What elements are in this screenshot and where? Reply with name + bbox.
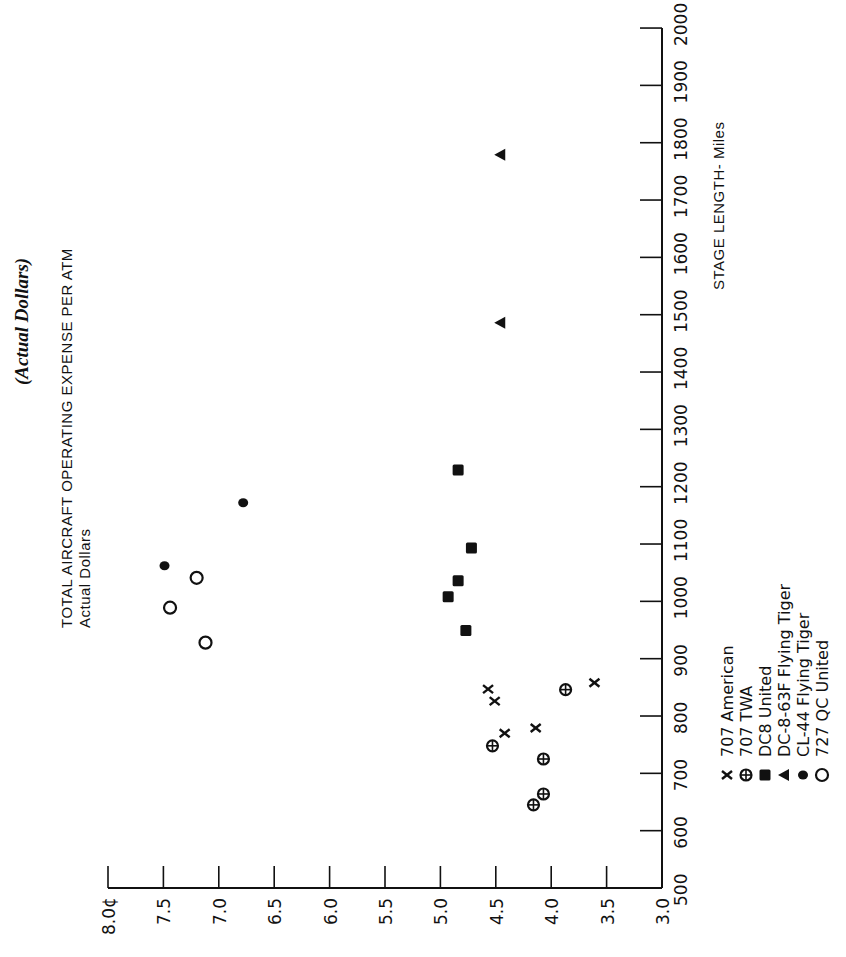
filled-circle-icon xyxy=(798,771,808,780)
stage-length-tick-label: 1700 xyxy=(671,175,691,218)
cost-tick-label: 6.0 xyxy=(321,898,341,925)
legend-label: 707 TWA xyxy=(737,686,756,757)
open-circle-marker xyxy=(200,637,212,649)
cost-tick-label: 3.0 xyxy=(653,898,673,925)
stage-length-tick-label: 600 xyxy=(671,816,691,848)
scatter-chart: 3.03.54.04.55.05.56.06.57.07.58.0¢500600… xyxy=(0,0,846,957)
filled-square-marker xyxy=(453,575,464,586)
legend-label: 707 American xyxy=(718,645,737,757)
stage-length-tick-label: 1900 xyxy=(671,60,691,103)
data-points xyxy=(160,149,600,811)
cost-tick-label: 7.5 xyxy=(154,898,174,925)
y-axis-subtitle: Actual Dollars xyxy=(76,528,93,628)
axes xyxy=(108,28,662,888)
cost-tick-label: 5.0 xyxy=(431,898,451,925)
filled-square-marker xyxy=(466,543,477,554)
cost-tick-label: 8.0¢ xyxy=(99,897,119,935)
stage-length-tick-label: 800 xyxy=(671,702,691,734)
stage-length-tick-label: 1200 xyxy=(671,461,691,504)
cost-tick-label: 6.5 xyxy=(265,898,285,925)
filled-square-marker xyxy=(443,591,454,602)
legend-label: DC8 United xyxy=(756,666,775,757)
circle-plus-marker xyxy=(528,799,539,810)
filled-circle-marker xyxy=(160,561,170,570)
filled-circle-marker xyxy=(238,498,248,507)
x-axis-title: STAGE LENGTH- Miles xyxy=(710,122,727,290)
stage-length-tick-label: 900 xyxy=(671,644,691,676)
stage-length-tick-label: 1300 xyxy=(671,404,691,447)
filled-triangle-marker xyxy=(494,317,505,329)
cost-tick-label: 4.5 xyxy=(487,898,507,925)
chart-subtitle: (Actual Dollars) xyxy=(11,258,33,385)
circle-plus-marker xyxy=(560,684,571,695)
tick-labels: 3.03.54.04.55.05.56.06.57.07.58.0¢500600… xyxy=(99,3,691,935)
filled-triangle-marker xyxy=(494,149,505,161)
stage-length-tick-label: 500 xyxy=(671,874,691,906)
x-cross-marker xyxy=(531,724,541,732)
circle-plus-icon xyxy=(741,770,752,781)
circle-plus-marker xyxy=(538,754,549,765)
open-circle-marker xyxy=(191,572,203,584)
stage-length-tick-label: 1600 xyxy=(671,232,691,275)
legend-label: DC-8-63F Flying Tiger xyxy=(775,583,794,757)
filled-square-icon xyxy=(760,770,771,781)
x-cross-icon xyxy=(722,771,732,779)
stage-length-tick-label: 700 xyxy=(671,759,691,791)
stage-length-tick-label: 1000 xyxy=(671,576,691,619)
filled-square-marker xyxy=(460,625,471,636)
tick-marks xyxy=(108,28,662,888)
legend-label: CL-44 Flying Tiger xyxy=(794,612,813,757)
x-cross-marker xyxy=(490,697,500,705)
legend: 707 American707 TWADC8 UnitedDC-8-63F Fl… xyxy=(718,583,832,781)
stage-length-tick-label: 1800 xyxy=(671,117,691,160)
open-circle-marker xyxy=(164,602,176,614)
circle-plus-marker xyxy=(487,740,498,751)
cost-tick-label: 3.5 xyxy=(598,898,618,925)
y-axis-title: TOTAL AIRCRAFT OPERATING EXPENSE PER ATM xyxy=(58,248,75,628)
stage-length-tick-label: 2000 xyxy=(671,3,691,46)
x-cross-marker xyxy=(500,729,510,737)
cost-tick-label: 7.0 xyxy=(210,898,230,925)
stage-length-tick-label: 1400 xyxy=(671,347,691,390)
filled-triangle-icon xyxy=(778,769,789,781)
legend-label: 727 QC United xyxy=(813,640,832,757)
cost-tick-label: 4.0 xyxy=(542,898,562,925)
cost-tick-label: 5.5 xyxy=(376,898,396,925)
x-cross-marker xyxy=(589,679,599,687)
filled-square-marker xyxy=(453,465,464,476)
circle-plus-marker xyxy=(538,788,549,799)
stage-length-tick-label: 1500 xyxy=(671,289,691,332)
x-cross-marker xyxy=(483,685,493,693)
stage-length-tick-label: 1100 xyxy=(671,519,691,562)
open-circle-icon xyxy=(816,769,828,781)
